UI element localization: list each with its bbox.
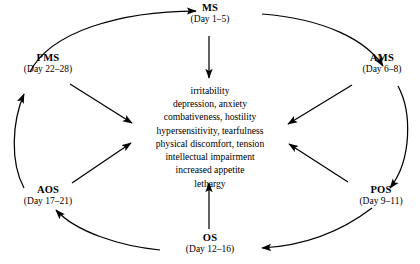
arc-os-to-aos (56, 210, 160, 250)
symptom-item: depression, anxiety (110, 97, 310, 110)
node-aos-abbr: AOS (2, 184, 94, 196)
node-ms-days: (Day 1–5) (160, 14, 260, 25)
node-ams-days: (Day 6–8) (345, 64, 419, 75)
node-pms-abbr: PMS (2, 52, 94, 64)
symptom-item: hypersensitivity, tearfulness (110, 124, 310, 137)
arc-ams-to-pos (390, 86, 408, 188)
node-aos[interactable]: AOS (Day 17–21) (2, 184, 94, 206)
node-os[interactable]: OS (Day 12–16) (160, 232, 260, 254)
node-pms[interactable]: PMS (Day 22–28) (2, 52, 94, 74)
node-pos[interactable]: POS (Day 9–11) (344, 184, 418, 206)
node-aos-days: (Day 17–21) (2, 196, 94, 207)
arc-aos-to-pms (14, 94, 24, 188)
node-ms-abbr: MS (160, 2, 260, 14)
node-ams[interactable]: AMS (Day 6–8) (345, 52, 419, 74)
node-pos-days: (Day 9–11) (344, 196, 418, 207)
symptom-item: irritability (110, 84, 310, 97)
symptom-list: irritability depression, anxiety combati… (110, 84, 310, 190)
node-ams-abbr: AMS (345, 52, 419, 64)
symptom-item: lethargy (110, 177, 310, 190)
node-pms-days: (Day 22–28) (2, 64, 94, 75)
symptom-item: physical discomfort, tension (110, 137, 310, 150)
symptom-item: combativeness, hostility (110, 110, 310, 123)
arc-pos-to-os (262, 208, 372, 248)
node-os-days: (Day 12–16) (160, 244, 260, 255)
node-ms[interactable]: MS (Day 1–5) (160, 2, 260, 24)
symptom-item: intellectual impairment (110, 150, 310, 163)
node-os-abbr: OS (160, 232, 260, 244)
node-pos-abbr: POS (344, 184, 418, 196)
symptom-item: increased appetite (110, 163, 310, 176)
